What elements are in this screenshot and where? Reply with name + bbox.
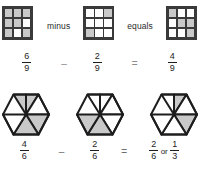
- grid-row-shapes: minus equals: [0, 6, 199, 40]
- denominator: 9: [94, 64, 101, 73]
- hexagon-model-minuend: [1, 92, 51, 137]
- hexagon-row-fractions: 4 6 – 2 6 = 2 6 or 1 3: [0, 140, 199, 161]
- grid-cell: [23, 9, 31, 18]
- grid-model-minuend: [2, 6, 33, 40]
- grid-cell: [14, 19, 22, 28]
- hexagon-svg: [75, 92, 125, 137]
- grid-cell: [187, 19, 195, 28]
- denominator: 6: [21, 152, 28, 161]
- hexagon-row-shapes: [0, 92, 199, 137]
- grid-cell: [169, 19, 177, 28]
- grid-cell: [104, 19, 112, 28]
- numerator: 4: [21, 140, 28, 149]
- fraction-2-9: 2 9: [93, 52, 102, 73]
- grid-row-fractions: 6 9 – 2 9 = 4 9: [0, 52, 199, 73]
- grid-cell: [95, 9, 103, 18]
- minus-symbol: –: [61, 59, 67, 69]
- grid-cell: [5, 9, 13, 18]
- grid-cell: [178, 9, 186, 18]
- grid-term-subtrahend: [83, 6, 114, 40]
- hex-triangle: [161, 95, 174, 115]
- grid-term-difference: [166, 6, 197, 40]
- grid-cell: [187, 29, 195, 38]
- hex-triangle: [87, 95, 100, 115]
- grid-cell: [86, 9, 94, 18]
- grid-cell: [86, 29, 94, 38]
- numerator: 6: [23, 52, 30, 61]
- numerator: 2: [91, 140, 98, 149]
- grid-cell: [178, 19, 186, 28]
- numerator: 2: [150, 140, 157, 149]
- grid-cell: [169, 29, 177, 38]
- grid-cell: [14, 29, 22, 38]
- denominator: 3: [171, 152, 178, 161]
- grid-cell: [104, 29, 112, 38]
- hexagon-model-subtrahend: [75, 92, 125, 137]
- grid-model-subtrahend: [83, 6, 114, 40]
- grid-cell: [5, 19, 13, 28]
- grid-cell: [169, 9, 177, 18]
- fraction-answer-1-3: 1 3: [170, 140, 179, 161]
- grid-cell: [187, 9, 195, 18]
- equals-symbol: =: [121, 147, 127, 157]
- numerator: 1: [171, 140, 178, 149]
- hexagon-model-difference: [149, 92, 199, 137]
- fraction-2-6: 2 6: [90, 140, 99, 161]
- numerator: 4: [169, 52, 176, 61]
- operator-word-minus: minus: [47, 22, 70, 31]
- grid-cell: [178, 29, 186, 38]
- grid-cell: [86, 19, 94, 28]
- grid-cell: [95, 19, 103, 28]
- answer-combo: 2 6 or 1 3: [149, 140, 179, 161]
- or-word: or: [161, 146, 168, 156]
- denominator: 9: [23, 64, 30, 73]
- grid-cell: [14, 9, 22, 18]
- fraction-4-9: 4 9: [168, 52, 177, 73]
- grid-model-difference: [166, 6, 197, 40]
- grid-cell: [23, 19, 31, 28]
- denominator: 6: [150, 152, 157, 161]
- grid-cell: [104, 9, 112, 18]
- equals-symbol: =: [132, 59, 138, 69]
- hex-triangle: [13, 95, 26, 115]
- denominator: 9: [169, 64, 176, 73]
- numerator: 2: [94, 52, 101, 61]
- fraction-answer-2-6: 2 6: [149, 140, 158, 161]
- fraction-6-9: 6 9: [22, 52, 31, 73]
- grid-cell: [5, 29, 13, 38]
- operator-word-equals: equals: [127, 22, 153, 31]
- grid-cell: [23, 29, 31, 38]
- fraction-diagram: minus equals: [0, 0, 199, 171]
- fraction-4-6: 4 6: [20, 140, 29, 161]
- grid-term-minuend: [2, 6, 33, 40]
- hexagon-svg: [1, 92, 51, 137]
- minus-symbol: –: [59, 147, 65, 157]
- denominator: 6: [91, 152, 98, 161]
- grid-cell: [95, 29, 103, 38]
- hexagon-svg: [149, 92, 199, 137]
